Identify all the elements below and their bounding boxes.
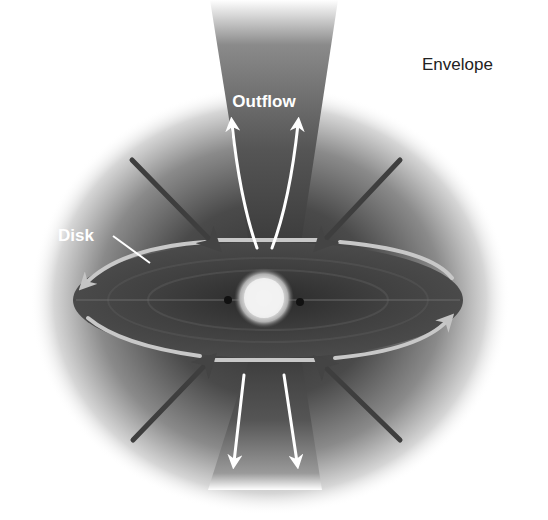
- outflow-label: Outflow: [232, 92, 296, 111]
- protostar: [234, 268, 294, 328]
- disk-label: Disk: [58, 226, 94, 245]
- protostar-diagram: Outflow Disk Envelope: [0, 0, 548, 520]
- envelope-label: Envelope: [422, 55, 493, 74]
